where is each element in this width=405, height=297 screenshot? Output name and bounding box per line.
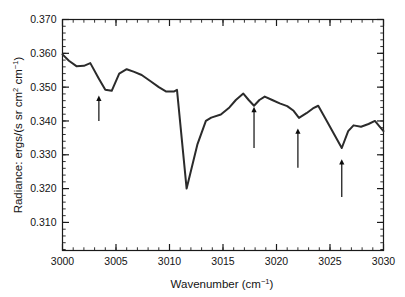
y-axis-title-sup2: −1 xyxy=(11,60,20,69)
x-tick-label: 3005 xyxy=(104,255,128,267)
radiance-spectrum-chart: 3000300530103015302030253030 0.3100.3200… xyxy=(0,0,405,297)
x-tick-label: 3015 xyxy=(211,255,235,267)
y-axis-title-p3: ) xyxy=(12,56,24,60)
y-tick-label: 0.370 xyxy=(30,13,56,25)
x-tick-label: 3025 xyxy=(318,255,342,267)
y-tick-label: 0.350 xyxy=(30,81,56,93)
y-tick-label: 0.330 xyxy=(30,148,56,160)
x-tick-label: 3030 xyxy=(372,255,396,267)
x-axis-title: Wavenumber (cm−1) xyxy=(171,277,274,290)
x-tick-label: 3010 xyxy=(158,255,182,267)
figure-container: 3000300530103015302030253030 0.3100.3200… xyxy=(0,0,405,297)
x-axis-title-base: Wavenumber (cm xyxy=(171,278,261,290)
x-axis-title-superscript: −1 xyxy=(261,277,270,286)
x-tick-label: 3020 xyxy=(265,255,289,267)
x-axis-title-tail: ) xyxy=(270,278,274,290)
y-tick-label: 0.340 xyxy=(30,115,56,127)
y-tick-label: 0.360 xyxy=(30,47,56,59)
y-tick-label: 0.320 xyxy=(30,182,56,194)
y-axis-title-p1: Radiance: ergs/(s sr cm xyxy=(12,92,24,213)
x-tick-label: 3000 xyxy=(51,255,75,267)
y-tick-label: 0.310 xyxy=(30,216,56,228)
y-axis-title-p2: cm xyxy=(12,69,24,88)
y-axis-title: Radiance: ergs/(s sr cm2 cm−1) xyxy=(11,56,24,213)
chart-background xyxy=(0,0,405,297)
